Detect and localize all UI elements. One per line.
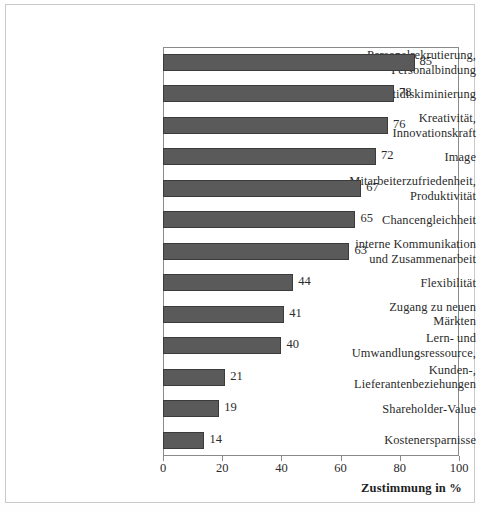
bar <box>163 148 376 165</box>
bar-value-label: 19 <box>224 398 237 416</box>
bar <box>163 117 388 134</box>
bar-value-label: 14 <box>209 430 222 448</box>
bar <box>163 306 284 323</box>
bar <box>163 211 355 228</box>
bar-row: 67 <box>163 173 459 204</box>
x-tick-label: 0 <box>143 461 183 476</box>
bar-row: 44 <box>163 267 459 298</box>
bar-row: 78 <box>163 78 459 109</box>
bar-row: 76 <box>163 110 459 141</box>
bar-row: 21 <box>163 362 459 393</box>
bar <box>163 85 394 102</box>
bar <box>163 432 204 449</box>
bar-row: 14 <box>163 425 459 456</box>
bar <box>163 180 361 197</box>
bar-row: 40 <box>163 330 459 361</box>
bar-value-label: 72 <box>381 146 394 164</box>
x-tick-label: 40 <box>261 461 301 476</box>
bar <box>163 243 349 260</box>
bar <box>163 400 219 417</box>
horizontal-bar-chart: Personalrekrutierung,PersonalbindungAnti… <box>0 0 481 511</box>
figure-container: Personalrekrutierung,PersonalbindungAnti… <box>0 0 481 511</box>
bar-row: 85 <box>163 47 459 78</box>
bar-value-label: 85 <box>420 52 433 70</box>
bar-value-label: 67 <box>366 178 379 196</box>
bar-row: 19 <box>163 393 459 424</box>
bar-value-label: 41 <box>289 304 302 322</box>
bar <box>163 369 225 386</box>
bar-value-label: 40 <box>286 335 299 353</box>
bar-value-label: 76 <box>393 115 406 133</box>
bar <box>163 337 281 354</box>
bar-value-label: 21 <box>230 367 243 385</box>
bar-row: 65 <box>163 204 459 235</box>
bar-row: 41 <box>163 299 459 330</box>
x-tick-label: 60 <box>321 461 361 476</box>
x-tick-label: 20 <box>202 461 242 476</box>
bar-value-label: 44 <box>298 272 311 290</box>
x-axis-title: Zustimmung in % <box>290 481 462 496</box>
bar-value-label: 65 <box>360 209 373 227</box>
bar-value-label: 63 <box>354 241 367 259</box>
bar-row: 63 <box>163 236 459 267</box>
bar-row: 72 <box>163 141 459 172</box>
x-tick-label: 80 <box>380 461 420 476</box>
bar <box>163 274 293 291</box>
x-tick-label: 100 <box>439 461 479 476</box>
bar-value-label: 78 <box>399 83 412 101</box>
bar <box>163 54 415 71</box>
